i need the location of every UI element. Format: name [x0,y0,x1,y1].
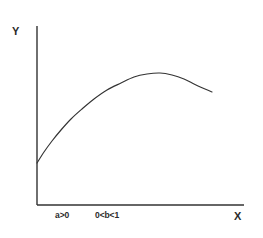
parameter-a-annotation: a>0 [55,211,69,220]
chart-canvas [0,0,263,238]
x-axis-label: X [234,211,241,222]
y-axis-label: Y [12,26,19,37]
parameter-b-annotation: 0<b<1 [95,211,119,220]
data-curve [37,73,212,163]
chart-figure: Y X a>0 0<b<1 [0,0,263,238]
